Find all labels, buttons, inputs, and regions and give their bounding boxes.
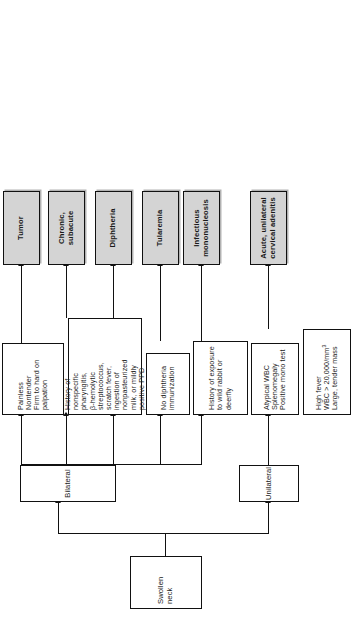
outcome-chronic-subacute[interactable]: Chronic, subacute <box>48 191 85 265</box>
connector-bilateral-r1 <box>21 415 22 465</box>
node-diphtheria-criteria[interactable]: No diphtheria immunization <box>146 353 190 415</box>
node-chronic-criteria[interactable]: History of nonspecific pharyngitis, β-he… <box>68 318 142 415</box>
outcome-chronic-subacute-label: Chronic, subacute <box>58 196 75 260</box>
node-mono-criteria[interactable]: Atypical WBC Splenomegaly Positive mono … <box>251 343 299 415</box>
node-adenitis-criteria[interactable]: High feverWBC > 20,000/mm3Large, tender … <box>303 329 351 415</box>
outcome-acute-unilateral-cervical-adenitis-label: Acute, unilateral cervical adenitis <box>260 196 277 260</box>
connector-bilateral-r2 <box>66 415 67 465</box>
outcome-tumor[interactable]: Tumor <box>3 191 40 265</box>
outcome-diphtheria-label: Diphtheria <box>109 196 118 260</box>
connector-bilateral-r3 <box>113 415 114 465</box>
node-adenitis-criteria-text: High feverWBC > 20,000/mm3Large, tender … <box>315 345 340 410</box>
adenitis-line-2-superscript: 3 <box>321 345 327 348</box>
connector-out-1 <box>21 265 22 343</box>
connector-to-bilateral <box>58 502 59 534</box>
connector-to-unilateral <box>268 502 269 534</box>
node-tumor-criteria-text: Painless Nontender Firm to hard on palpa… <box>17 360 50 410</box>
node-swollen-neck[interactable]: Swollen neck <box>130 556 202 609</box>
connector-out-6 <box>268 265 269 329</box>
connector-unilateral-r6 <box>268 415 269 465</box>
connector-bilateral-r5 <box>201 415 202 465</box>
node-unilateral[interactable]: Unilateral <box>239 465 299 502</box>
adenitis-line-3: Large, tender mass <box>330 346 339 410</box>
connector-out-4 <box>160 265 161 341</box>
node-unilateral-label: Unilateral <box>265 467 274 500</box>
node-bilateral-label: Bilateral <box>64 469 73 497</box>
outcome-tularemia-label: Tularemia <box>156 196 165 260</box>
outcome-diphtheria[interactable]: Diphtheria <box>95 191 132 265</box>
node-mono-criteria-text: Atypical WBC Splenomegaly Positive mono … <box>263 349 288 410</box>
node-tularemia-criteria-text: History of exposure to wild rabbit or de… <box>208 346 233 410</box>
connector-root-out <box>165 534 166 556</box>
node-diphtheria-criteria-text: No diphtheria immunization <box>160 366 176 410</box>
node-tularemia-criteria[interactable]: History of exposure to wild rabbit or de… <box>193 341 248 415</box>
outcome-infectious-mononucleosis-label: Infectious mononucleosis <box>193 196 210 260</box>
connector-out-2 <box>66 265 67 318</box>
outcome-tumor-label: Tumor <box>17 196 26 260</box>
outcome-tularemia[interactable]: Tularemia <box>142 191 179 265</box>
node-tumor-criteria[interactable]: Painless Nontender Firm to hard on palpa… <box>2 343 64 415</box>
node-chronic-criteria-text: History of nonspecific pharyngitis, β-he… <box>64 359 146 410</box>
outcome-acute-unilateral-cervical-adenitis[interactable]: Acute, unilateral cervical adenitis <box>250 191 287 265</box>
connector-bilateral-spine-lower <box>113 464 201 465</box>
connector-root-spine <box>58 533 268 534</box>
outcome-infectious-mononucleosis[interactable]: Infectious mononucleosis <box>183 191 220 265</box>
connector-out-5 <box>201 265 202 343</box>
node-bilateral[interactable]: Bilateral <box>20 465 116 502</box>
connector-bilateral-r4 <box>160 415 161 465</box>
node-swollen-neck-label: Swollen neck <box>157 561 174 604</box>
